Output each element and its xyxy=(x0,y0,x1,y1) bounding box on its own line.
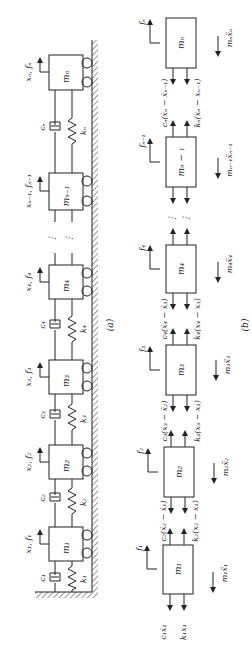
fbd-force-f1: f₁ xyxy=(135,545,144,552)
spring-k1 xyxy=(68,561,76,592)
mass-label-mn1: mₙ₋₁ xyxy=(61,186,71,207)
ellipsis-a-damper: ⋮ xyxy=(47,234,57,243)
fbd-force-fn1: fₙ₋₁ xyxy=(138,134,147,149)
fbd-spring-force-2: k₂(x₂ − x₁) xyxy=(191,500,200,542)
fbd-label-mn1: mₙ − ₁ xyxy=(176,147,186,176)
damper-c4 xyxy=(50,299,60,360)
fbd-inertia-m1: m₁ẍ₁ xyxy=(220,564,229,583)
mass-label-m4: m₄ xyxy=(61,280,71,293)
fbd-damper-force-2: c₂(ẋ₂ − ẋ₁) xyxy=(159,500,168,541)
fbd-damper-force-n: cₙ(ẋₙ − ẋₙ₋₁) xyxy=(160,79,169,128)
fbd-damper-force-3: c₃(ẋ₃ − ẋ₂) xyxy=(160,400,169,441)
damper-label-c1: c₁ xyxy=(38,574,47,582)
caption-a: (a) xyxy=(105,318,115,331)
fbd-inertia-arrows xyxy=(213,36,218,590)
mass-label-m1: m₁ xyxy=(61,542,71,554)
fbd-inertia-m2: m₂ẍ₂ xyxy=(221,458,230,477)
force-arrows-a xyxy=(40,60,49,544)
part-b-free-body xyxy=(147,18,218,608)
figure-canvas: mₙ mₙ₋₁ m₄ m₃ m₂ m₁ xₙ, fₙ xₙ₋₁, fₙ₋₁ x₄… xyxy=(0,0,252,650)
spring-k4 xyxy=(68,299,76,360)
disp-force-label-n1: xₙ₋₁, fₙ₋₁ xyxy=(24,174,33,208)
spring-k3 xyxy=(68,394,76,445)
fbd-label-mn: mₙ xyxy=(176,37,186,50)
fbd-force-f2: f₂ xyxy=(136,448,145,455)
spring-label-k2: k₂ xyxy=(79,498,88,506)
mass-label-m2: m₂ xyxy=(61,460,71,473)
fbd-force-arrows xyxy=(147,22,160,569)
fbd-inertia-m4: m₄ẍ₄ xyxy=(225,255,234,274)
damper-label-c4: c₄ xyxy=(38,321,47,329)
disp-force-label-n: xₙ, fₙ xyxy=(24,62,33,81)
fbd-force-fn: fₙ xyxy=(138,19,147,26)
damper-cn xyxy=(50,90,60,173)
spring-label-k1: k₁ xyxy=(79,575,88,583)
fbd-inertia-m3: m₃ẍ₃ xyxy=(223,356,232,375)
disp-force-label-1: x₁, f₁ xyxy=(24,535,33,554)
fbd-label-m1: m₁ xyxy=(173,563,183,575)
fbd-label-m2: m₂ xyxy=(174,466,184,479)
damper-c2 xyxy=(50,479,60,527)
spring-label-k4: k₄ xyxy=(79,325,88,333)
mdof-system-figure: mₙ mₙ₋₁ m₄ m₃ m₂ m₁ xₙ, fₙ xₙ₋₁, fₙ₋₁ x₄… xyxy=(0,0,252,650)
mass-label-m3: m₃ xyxy=(61,375,71,388)
spring-kn xyxy=(68,90,76,173)
fbd-damper-force-1: c₁ẋ₁ xyxy=(159,624,168,639)
damper-label-cn: cₙ xyxy=(38,123,47,131)
disp-force-label-2: x₂, f₂ xyxy=(24,453,33,472)
fbd-force-f4: f₄ xyxy=(138,245,147,252)
disp-force-label-3: x₃, f₃ xyxy=(24,368,33,387)
fbd-label-m4: m₄ xyxy=(176,263,186,276)
damper-c3 xyxy=(50,394,60,445)
fbd-spring-force-1: k₁x₁ xyxy=(179,624,188,640)
damper-label-c3: c₃ xyxy=(38,411,47,419)
fbd-spring-force-4: k₄(x₄ − x₃) xyxy=(193,298,202,340)
fbd-force-f3: f₃ xyxy=(138,346,147,353)
fbd-inertia-mn1: mₙ₋₁ẍₙ₋₁ xyxy=(225,143,234,176)
ellipsis-b-damper: ⋮ xyxy=(167,214,177,223)
fbd-damper-force-4: c₄(ẋ₄ − ẋ₃) xyxy=(160,298,169,339)
ground-hatch xyxy=(92,40,98,598)
disp-force-label-4: x₄, f₄ xyxy=(24,273,33,292)
spring-k2 xyxy=(68,479,76,527)
damper-c1 xyxy=(50,561,60,592)
ellipsis-a-spring: ⋮ xyxy=(64,234,74,243)
fbd-inertia-mn: mₙẍₙ xyxy=(225,29,234,48)
ellipsis-b-spring: ⋮ xyxy=(181,214,191,223)
fbd-label-m3: m₃ xyxy=(176,364,186,377)
fbd-spring-force-3: k₃(x₃ − x₁) xyxy=(193,400,202,442)
fbd-spring-force-n: kₙ(xₙ − xₙ₋₁) xyxy=(193,78,202,127)
spring-label-kn: kₙ xyxy=(79,127,88,135)
caption-b: (b) xyxy=(240,318,250,331)
mass-label-mn: mₙ xyxy=(61,71,71,84)
base-hatch xyxy=(35,592,92,598)
damper-label-c2: c₂ xyxy=(38,494,47,502)
spring-label-k3: k₃ xyxy=(79,415,88,423)
